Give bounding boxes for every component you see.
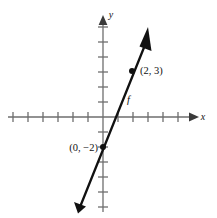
point-label-lower: (0, −2) [69, 142, 98, 154]
data-point-lower [100, 144, 106, 150]
x-axis-arrow-icon [189, 113, 199, 122]
graph-figure: x y (2, 3) (0, −2) f [0, 0, 217, 218]
y-axis-label: y [108, 9, 114, 20]
function-line [80, 45, 145, 207]
data-point-upper [129, 68, 135, 74]
line-arrow-up-icon [140, 27, 152, 51]
y-axis-arrow-icon [99, 15, 108, 25]
coordinate-plane: x y (2, 3) (0, −2) f [0, 0, 217, 218]
function-label: f [127, 94, 132, 105]
point-label-upper: (2, 3) [140, 65, 163, 77]
line-arrow-down-icon [74, 202, 86, 214]
x-axis-label: x [200, 111, 206, 122]
